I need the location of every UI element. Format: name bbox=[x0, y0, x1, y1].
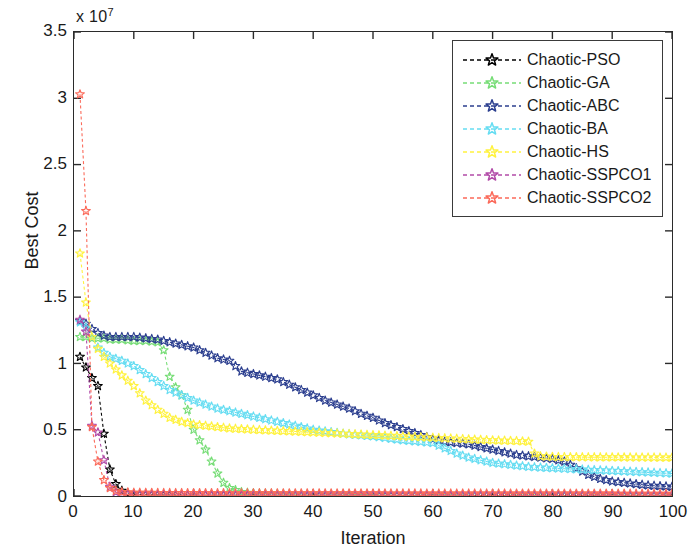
series-marker bbox=[76, 249, 85, 257]
legend-swatch bbox=[461, 119, 523, 139]
series-line bbox=[80, 253, 672, 457]
y-axis-exponent-mantissa: x 10 bbox=[76, 8, 107, 25]
series-marker bbox=[82, 206, 91, 214]
legend-item[interactable]: Chaotic-PSO bbox=[461, 48, 652, 71]
figure: x 107 00.511.522.533.5 01020304050607080… bbox=[0, 0, 699, 558]
legend-label: Chaotic-GA bbox=[523, 74, 610, 92]
y-axis-exponent: x 107 bbox=[76, 6, 114, 26]
series-chaotic-pso bbox=[76, 352, 672, 496]
legend-item[interactable]: Chaotic-SSPCO1 bbox=[461, 163, 652, 186]
legend-item[interactable]: Chaotic-BA bbox=[461, 117, 652, 140]
x-tick-label: 60 bbox=[403, 502, 463, 522]
legend-swatch bbox=[461, 188, 523, 208]
series-marker bbox=[76, 90, 85, 98]
legend-item[interactable]: Chaotic-ABC bbox=[461, 94, 652, 117]
legend-item[interactable]: Chaotic-SSPCO2 bbox=[461, 186, 652, 209]
y-tick-label: 1 bbox=[21, 354, 67, 374]
legend-label: Chaotic-BA bbox=[523, 120, 608, 138]
series-marker bbox=[207, 457, 216, 465]
x-tick-label: 100 bbox=[643, 502, 699, 522]
x-tick-label: 40 bbox=[283, 502, 343, 522]
legend-swatch bbox=[461, 73, 523, 93]
legend: Chaotic-PSOChaotic-GAChaotic-ABCChaotic-… bbox=[452, 40, 663, 217]
legend-label: Chaotic-HS bbox=[523, 143, 609, 161]
x-tick-label: 50 bbox=[343, 502, 403, 522]
legend-swatch bbox=[461, 165, 523, 185]
legend-item[interactable]: Chaotic-HS bbox=[461, 140, 652, 163]
y-tick-label: 3.5 bbox=[21, 21, 67, 41]
x-tick-label: 80 bbox=[523, 502, 583, 522]
series-chaotic-abc bbox=[76, 316, 672, 490]
legend-label: Chaotic-SSPCO2 bbox=[523, 189, 652, 207]
x-tick-label: 90 bbox=[583, 502, 643, 522]
y-tick-label: 0.5 bbox=[21, 420, 67, 440]
x-tick-label: 0 bbox=[43, 502, 103, 522]
y-tick-label: 3 bbox=[21, 88, 67, 108]
x-axis-title: Iteration bbox=[73, 528, 673, 549]
legend-label: Chaotic-PSO bbox=[523, 51, 620, 69]
x-tick-label: 20 bbox=[163, 502, 223, 522]
y-axis-exponent-power: 7 bbox=[107, 6, 113, 18]
legend-swatch bbox=[461, 142, 523, 162]
series-line bbox=[80, 357, 672, 496]
legend-label: Chaotic-ABC bbox=[523, 97, 619, 115]
legend-swatch bbox=[461, 96, 523, 116]
x-tick-label: 70 bbox=[463, 502, 523, 522]
series-line bbox=[80, 321, 672, 487]
legend-label: Chaotic-SSPCO1 bbox=[523, 166, 652, 184]
y-axis-title: Best Cost bbox=[22, 151, 43, 311]
legend-item[interactable]: Chaotic-GA bbox=[461, 71, 652, 94]
series-marker bbox=[159, 346, 168, 354]
series-marker bbox=[76, 352, 85, 360]
x-tick-label: 30 bbox=[223, 502, 283, 522]
legend-swatch bbox=[461, 50, 523, 70]
x-axis-tick-labels: 0102030405060708090100 bbox=[73, 502, 673, 528]
series-chaotic-hs bbox=[76, 249, 672, 461]
series-marker bbox=[165, 372, 174, 380]
x-tick-label: 10 bbox=[103, 502, 163, 522]
